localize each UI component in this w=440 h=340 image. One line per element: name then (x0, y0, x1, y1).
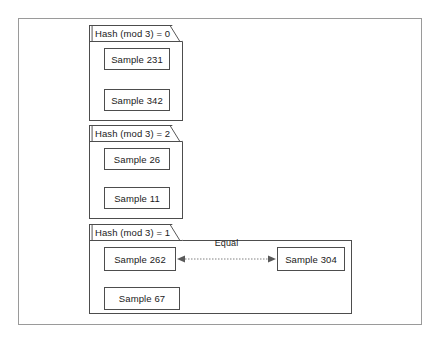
sample-box-304[interactable]: Sample 304 (277, 247, 345, 271)
sample-box-262-label: Sample 262 (114, 254, 166, 265)
sample-box-26-label: Sample 26 (114, 154, 160, 165)
bucket-hash-2-label: Hash (mod 3) = 2 (95, 125, 170, 142)
sample-box-262[interactable]: Sample 262 (104, 247, 176, 271)
bucket-hash-2[interactable]: Hash (mod 3) = 2 Sample 26 Sample 11 (89, 125, 183, 219)
sample-box-342[interactable]: Sample 342 (104, 89, 170, 111)
bucket-hash-1-label: Hash (mod 3) = 1 (95, 224, 170, 241)
sample-box-342-label: Sample 342 (111, 95, 163, 106)
diagram-canvas: Hash (mod 3) = 0 Sample 231 Sample 342 H… (0, 0, 440, 340)
bucket-hash-0-label: Hash (mod 3) = 0 (95, 25, 170, 42)
sample-box-67[interactable]: Sample 67 (104, 287, 180, 310)
sample-box-11-label: Sample 11 (114, 193, 160, 204)
sample-box-26[interactable]: Sample 26 (104, 148, 170, 170)
sample-box-231-label: Sample 231 (111, 54, 163, 65)
equal-connector-label: Equal (176, 238, 277, 248)
sample-box-231[interactable]: Sample 231 (104, 48, 170, 70)
sample-box-67-label: Sample 67 (119, 293, 165, 304)
bucket-hash-0[interactable]: Hash (mod 3) = 0 Sample 231 Sample 342 (89, 25, 183, 121)
bucket-hash-1[interactable]: Hash (mod 3) = 1 Sample 262 Sample 304 S… (89, 224, 352, 314)
sample-box-304-label: Sample 304 (285, 254, 337, 265)
sample-box-11[interactable]: Sample 11 (104, 187, 170, 209)
